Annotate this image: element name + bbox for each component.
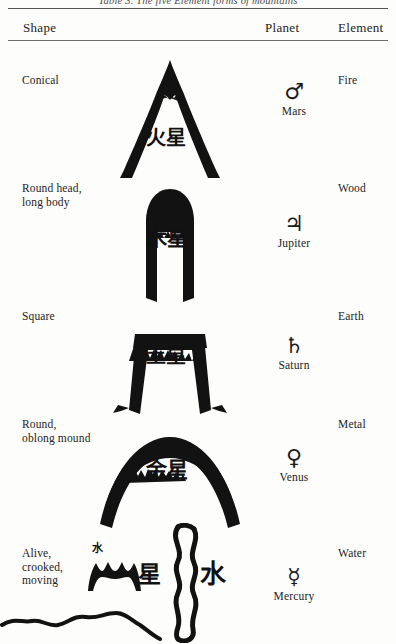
planet-name-label: Saturn	[258, 358, 330, 372]
mercury-symbol: ☿	[258, 565, 330, 589]
row-shape-label: Alive, crooked, moving	[22, 547, 63, 588]
row-shape-label: Round head, long body	[22, 182, 82, 209]
column-header-element: Element	[338, 20, 383, 36]
table-row: Square 土星 ♄ Saturn Earth	[0, 300, 396, 412]
table-row: Conical 火星 ♂ Mars Fire	[0, 62, 396, 180]
planet-name-label: Jupiter	[258, 236, 330, 250]
mountain-character-wood: 木星	[146, 228, 188, 249]
venus-symbol: ♀	[258, 446, 330, 470]
table-page: Table 3. The five Element forms of mount…	[0, 0, 396, 644]
mountain-character-fire: 火星	[146, 128, 186, 148]
row-element-label: Earth	[338, 310, 364, 322]
table-row: Round head, long body 木星 ♃ Jupiter Wood	[0, 180, 396, 300]
planet-name-label: Mercury	[258, 589, 330, 603]
column-header-planet: Planet	[265, 20, 299, 36]
planet-cell-jupiter: ♃ Jupiter	[258, 212, 330, 250]
jupiter-symbol: ♃	[258, 212, 330, 236]
planet-cell-mars: ♂ Mars	[258, 80, 330, 118]
row-shape-label: Square	[22, 310, 55, 324]
row-element-label: Fire	[338, 74, 357, 86]
row-element-label: Metal	[338, 418, 366, 430]
mountain-character-earth: 土星	[146, 346, 186, 366]
planet-name-label: Mars	[258, 104, 330, 118]
table-caption: Table 3. The five Element forms of mount…	[0, 0, 396, 6]
mountain-character-metal: 金星	[146, 460, 188, 481]
mountain-character-water-xing: 星	[138, 563, 161, 586]
mars-symbol: ♂	[258, 80, 330, 104]
mountain-illustration-fire	[80, 58, 260, 180]
planet-name-label: Venus	[258, 470, 330, 484]
column-header-shape: Shape	[23, 20, 56, 36]
mountain-illustration-wavy-ridge	[0, 607, 180, 643]
mountain-character-water-shui: 水	[200, 561, 226, 587]
row-element-label: Water	[338, 547, 366, 559]
table-top-rule	[8, 8, 388, 9]
header-underline-rule	[8, 40, 388, 41]
planet-cell-saturn: ♄ Saturn	[258, 334, 330, 372]
row-shape-label: Conical	[22, 74, 59, 88]
planet-cell-mercury: ☿ Mercury	[258, 565, 330, 603]
table-row: Alive, crooked, moving 水 星 水	[0, 525, 396, 644]
planet-cell-venus: ♀ Venus	[258, 446, 330, 484]
table-row: Round, oblong mound 金星 ♀ Venus Metal	[0, 412, 396, 525]
row-element-label: Wood	[338, 182, 366, 194]
saturn-symbol: ♄	[258, 334, 330, 358]
